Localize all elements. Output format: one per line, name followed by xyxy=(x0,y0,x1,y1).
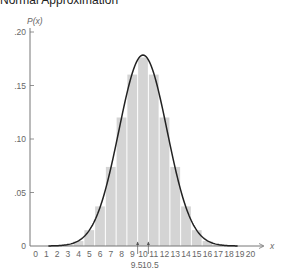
bar xyxy=(149,75,159,246)
x-tick-label: 19 xyxy=(235,249,245,259)
x-tick-label: 16 xyxy=(203,249,213,259)
y-tick-label: 0 xyxy=(21,241,26,251)
x-tick-label: 11 xyxy=(149,249,158,259)
x-tick-label: 7 xyxy=(108,249,113,259)
x-tick-label: 15 xyxy=(192,249,202,259)
x-tick-label: 8 xyxy=(119,249,124,259)
x-tick-label: 9 xyxy=(130,249,135,259)
bar xyxy=(127,75,137,246)
x-tick-label: 2 xyxy=(55,249,60,259)
x-tick-label: 20 xyxy=(246,249,256,259)
x-tick-label: 4 xyxy=(76,249,81,259)
x-tick-label: 0 xyxy=(33,249,38,259)
y-axis-label: P(x) xyxy=(27,16,43,26)
x-tick-label: 1 xyxy=(44,249,49,259)
y-tick-label: .05 xyxy=(14,188,26,198)
x-tick-label: 17 xyxy=(214,249,224,259)
x-tick-label: 3 xyxy=(65,249,70,259)
x-tick-label: 14 xyxy=(181,249,191,259)
bar xyxy=(84,230,94,246)
normal-approximation-chart: .20.15.10.050P(x)x0123456789101112131415… xyxy=(0,0,281,276)
x-tick-label: 12 xyxy=(160,249,170,259)
bar xyxy=(170,167,180,246)
y-tick-label: .15 xyxy=(14,81,26,91)
bar xyxy=(181,206,191,246)
annotation-10-5: 10.5 xyxy=(142,260,159,270)
x-tick-label: 5 xyxy=(87,249,92,259)
x-tick-label: 13 xyxy=(171,249,181,259)
x-axis-label: x xyxy=(269,241,275,251)
x-tick-label: 18 xyxy=(224,249,234,259)
bar xyxy=(95,206,105,246)
annotation-9-5: 9.5 xyxy=(131,260,143,270)
y-tick-label: .20 xyxy=(14,27,26,37)
y-tick-label: .10 xyxy=(14,134,26,144)
bar xyxy=(192,230,202,246)
bar xyxy=(106,167,116,246)
x-tick-label: 10 xyxy=(138,249,148,259)
x-tick-label: 6 xyxy=(98,249,103,259)
bar xyxy=(138,57,148,246)
